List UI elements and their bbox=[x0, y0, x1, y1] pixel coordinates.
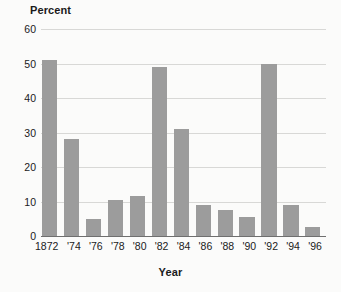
bar-slot bbox=[216, 29, 238, 236]
bar-slot bbox=[151, 29, 173, 236]
bars-group bbox=[41, 29, 326, 236]
x-tick-label: '84 bbox=[173, 240, 195, 252]
bar-slot bbox=[41, 29, 63, 236]
bar bbox=[152, 67, 167, 236]
bar-slot bbox=[85, 29, 107, 236]
x-axis-tick-labels: 1872'74'76'78'80'82'84'86'88'90'92'94'96 bbox=[41, 240, 326, 256]
x-tick-label: '94 bbox=[282, 240, 304, 252]
y-tick-label: 10 bbox=[24, 196, 36, 207]
x-tick-label: '90 bbox=[238, 240, 260, 252]
bar bbox=[196, 205, 211, 236]
y-tick-label: 20 bbox=[24, 162, 36, 173]
bar bbox=[261, 64, 276, 237]
bar-slot bbox=[260, 29, 282, 236]
bar-slot bbox=[63, 29, 85, 236]
bar bbox=[305, 227, 320, 236]
y-tick-label: 60 bbox=[24, 24, 36, 35]
plot-area: 0102030405060 bbox=[41, 29, 326, 236]
bar-slot bbox=[173, 29, 195, 236]
y-axis-title: Percent bbox=[30, 4, 71, 16]
bar bbox=[130, 196, 145, 236]
bar-slot bbox=[304, 29, 326, 236]
bar bbox=[64, 139, 79, 236]
x-axis-title: Year bbox=[0, 266, 341, 278]
bar-slot bbox=[238, 29, 260, 236]
bar bbox=[86, 219, 101, 236]
x-tick-label: '96 bbox=[304, 240, 326, 252]
bar bbox=[174, 129, 189, 236]
bar bbox=[218, 210, 233, 236]
bar bbox=[108, 200, 123, 236]
x-tick-label: '88 bbox=[216, 240, 238, 252]
x-tick-label: '86 bbox=[194, 240, 216, 252]
gridline-0 bbox=[41, 236, 326, 237]
bar bbox=[42, 60, 57, 236]
bar-chart-figure: Percent 0102030405060 1872'74'76'78'80'8… bbox=[0, 0, 341, 292]
bar bbox=[239, 217, 254, 236]
x-tick-label: 1872 bbox=[35, 240, 57, 252]
x-tick-label: '76 bbox=[85, 240, 107, 252]
bar-slot bbox=[107, 29, 129, 236]
y-tick-label: 40 bbox=[24, 93, 36, 104]
x-tick-label: '92 bbox=[260, 240, 282, 252]
y-tick-label: 50 bbox=[24, 58, 36, 69]
bar-slot bbox=[282, 29, 304, 236]
bar-slot bbox=[129, 29, 151, 236]
bar-slot bbox=[194, 29, 216, 236]
x-tick-label: '82 bbox=[151, 240, 173, 252]
bar bbox=[283, 205, 298, 236]
x-tick-label: '80 bbox=[129, 240, 151, 252]
y-tick-label: 30 bbox=[24, 127, 36, 138]
x-tick-label: '74 bbox=[63, 240, 85, 252]
x-tick-label: '78 bbox=[107, 240, 129, 252]
